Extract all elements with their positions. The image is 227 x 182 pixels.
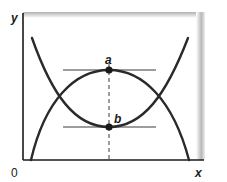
point-b [105, 123, 112, 130]
point-a-label: a [105, 53, 112, 67]
point-b-label: b [114, 112, 121, 126]
point-a [105, 66, 112, 73]
origin-label: 0 [11, 166, 18, 180]
x-axis-label: x [194, 166, 203, 180]
diagram: y x 0 a b [0, 0, 227, 182]
u-shaped-curve [32, 38, 188, 127]
frame-top-shade [23, 12, 205, 18]
y-axis-label: y [10, 11, 19, 25]
arch-curve [31, 70, 189, 160]
frame-right-shade [196, 12, 205, 160]
